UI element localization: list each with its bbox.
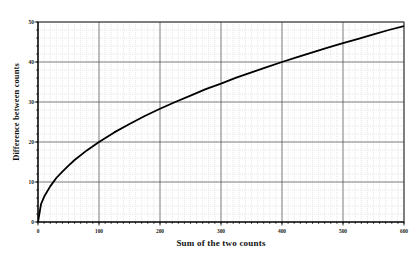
x-tick-label: 400 (278, 228, 286, 234)
y-tick-label: 50 (20, 19, 34, 25)
x-tick-label: 600 (400, 228, 408, 234)
x-tick-label: 300 (217, 228, 225, 234)
x-tick-label: 200 (156, 228, 164, 234)
chart-figure: Difference between counts 01002003004005… (0, 0, 416, 256)
x-axis-title: Sum of the two counts (38, 238, 404, 248)
y-tick-label: 0 (20, 219, 34, 225)
x-tick-label: 0 (37, 228, 40, 234)
plot-area (0, 0, 416, 256)
x-tick-label: 100 (95, 228, 103, 234)
y-tick-label: 30 (20, 99, 34, 105)
x-tick-label: 500 (339, 228, 347, 234)
y-tick-label: 40 (20, 59, 34, 65)
y-tick-label: 20 (20, 139, 34, 145)
y-tick-label: 10 (20, 179, 34, 185)
